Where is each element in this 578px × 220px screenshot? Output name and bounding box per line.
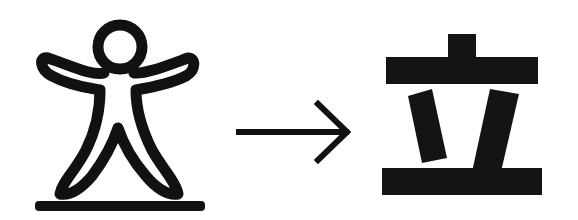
- standing-person-pictograph-icon: [0, 0, 230, 220]
- character-panel: 立: [360, 0, 578, 220]
- arrow-panel: →: [220, 0, 370, 220]
- right-arrow-icon: [220, 0, 370, 220]
- li-character-glyph-icon: [360, 0, 578, 220]
- pictograph-panel: Pictograph of a person standing on the g…: [0, 0, 230, 220]
